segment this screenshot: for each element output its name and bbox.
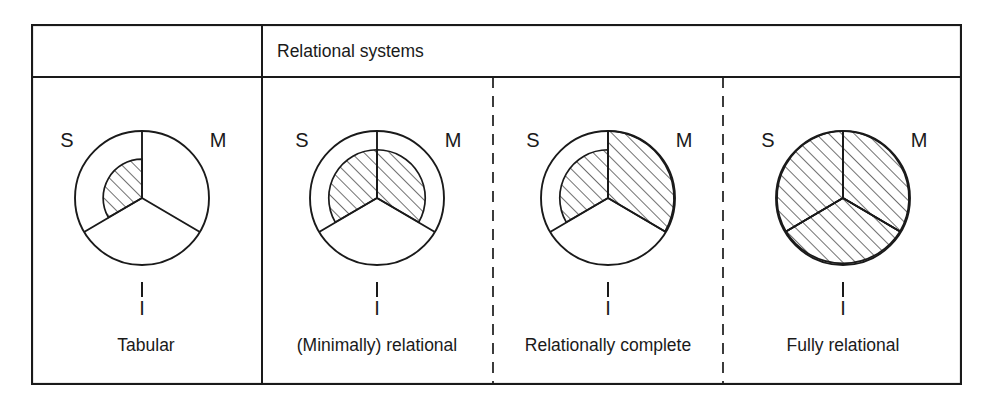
column-label-relationally-complete: Relationally complete <box>525 335 691 355</box>
figure-canvas: Relational systems S M I Tabular <box>31 24 962 385</box>
column-label-fully-relational: Fully relational <box>787 335 900 355</box>
sector-label-s-fully-relational: S <box>761 129 774 151</box>
diagram-minimally-relational: S M I <box>295 129 461 319</box>
column-minimally-relational: S M I (Minimally) relational <box>295 129 461 355</box>
sector-label-m-relationally-complete: M <box>676 129 693 151</box>
header-relational-systems: Relational systems <box>277 41 424 61</box>
sector-label-m-minimally-relational: M <box>445 129 462 151</box>
column-label-tabular: Tabular <box>117 335 175 355</box>
diagram-fully-relational: S M I <box>761 129 927 319</box>
sector-label-m-fully-relational: M <box>911 129 928 151</box>
sector-label-s-minimally-relational: S <box>295 129 308 151</box>
column-label-minimally-relational: (Minimally) relational <box>297 335 457 355</box>
sector-label-m-tabular: M <box>210 129 227 151</box>
diagram-relationally-complete: S M I <box>526 129 692 319</box>
sector-label-s-relationally-complete: S <box>526 129 539 151</box>
header-row: Relational systems <box>277 41 424 61</box>
sector-label-i-minimally-relational: I <box>374 297 380 319</box>
column-fully-relational: S M I Fully relational <box>761 129 927 355</box>
sector-label-i-relationally-complete: I <box>605 297 611 319</box>
sector-label-s-tabular: S <box>60 129 73 151</box>
sector-label-i-tabular: I <box>139 297 145 319</box>
relational-systems-figure: Relational systems S M I Tabular <box>31 24 962 385</box>
column-relationally-complete: S M I Relationally complete <box>525 129 693 355</box>
diagram-tabular: S M I <box>60 129 226 319</box>
column-tabular: S M I Tabular <box>60 129 226 355</box>
sector-label-i-fully-relational: I <box>840 297 846 319</box>
